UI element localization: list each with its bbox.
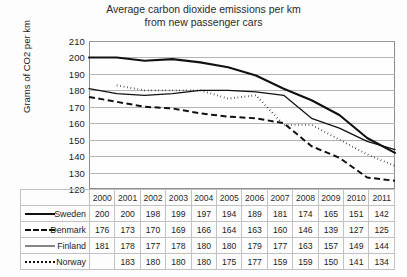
table-cell: 127	[344, 222, 369, 238]
table-cell: 149	[344, 238, 369, 254]
table-cell: 181	[267, 206, 292, 222]
table-cell: 146	[293, 222, 318, 238]
table-cell: 175	[217, 254, 242, 270]
chart-title: Average carbon dioxide emissions per km …	[0, 3, 407, 29]
legend-swatch-denmark-icon	[25, 229, 55, 231]
table-row: Sweden2002001981991971941891811741651511…	[21, 206, 395, 222]
y-tick-190: 190	[69, 68, 85, 79]
table-cell: 125	[369, 222, 395, 238]
table-cell: 139	[318, 222, 343, 238]
table-cell: 151	[344, 206, 369, 222]
series-lines	[89, 41, 395, 189]
table-cell: 194	[217, 206, 242, 222]
table-cell: 134	[369, 254, 395, 270]
table-cell: 177	[267, 238, 292, 254]
legend-swatch-finland-icon	[25, 245, 55, 246]
table-cell: 169	[166, 222, 191, 238]
table-header-2011: 2011	[369, 190, 395, 206]
legend-label: Sweden	[54, 209, 86, 219]
legend-swatch-sweden-icon	[25, 213, 55, 215]
chart-title-line-1: Average carbon dioxide emissions per km	[0, 3, 407, 16]
data-table-wrap: 2000200120022003200420052006200720082009…	[20, 189, 395, 270]
table-header-2007: 2007	[267, 190, 292, 206]
table-row: Finland181178177178180180179177163157149…	[21, 238, 395, 254]
table-cell: 178	[115, 238, 140, 254]
legend-label: Denmark	[50, 225, 86, 235]
y-axis-title: Grams of CO2 per km	[21, 20, 32, 113]
chart-container: Average carbon dioxide emissions per km …	[0, 0, 407, 277]
table-cell: 199	[166, 206, 191, 222]
table-cell: 174	[293, 206, 318, 222]
table-cell: 180	[140, 254, 165, 270]
legend-label: Finland	[57, 241, 86, 251]
table-cell: 177	[242, 254, 267, 270]
table-cell: 177	[140, 238, 165, 254]
table-row: Denmark176173170169166164163160146139127…	[21, 222, 395, 238]
table-header-2009: 2009	[318, 190, 343, 206]
table-header-2010: 2010	[344, 190, 369, 206]
table-cell: 180	[191, 254, 216, 270]
series-line-sweden	[89, 57, 395, 152]
table-cell: 180	[191, 238, 216, 254]
table-cell: 160	[267, 222, 292, 238]
table-cell: 197	[191, 206, 216, 222]
table-body: Sweden2002001981991971941891811741651511…	[21, 206, 395, 270]
table-cell: 141	[344, 254, 369, 270]
table-cell: 163	[293, 238, 318, 254]
table-cell: 178	[166, 238, 191, 254]
table-cell: 163	[242, 222, 267, 238]
table-header-2004: 2004	[191, 190, 216, 206]
table-cell: 150	[318, 254, 343, 270]
y-axis-tick-labels: 210200190180170160150140130120	[41, 34, 85, 196]
table-header-2005: 2005	[217, 190, 242, 206]
table-cell: 180	[217, 238, 242, 254]
series-line-finland	[89, 89, 395, 150]
table-cell-empty	[90, 254, 115, 270]
legend-label: Norway	[56, 257, 86, 267]
y-tick-140: 140	[69, 151, 85, 162]
legend-swatch-norway-icon	[25, 261, 55, 263]
table-cell: 173	[115, 222, 140, 238]
y-tick-210: 210	[69, 36, 85, 47]
chart-title-line-2: from new passenger cars	[0, 16, 407, 29]
table-cell: 170	[140, 222, 165, 238]
table-cell: 144	[369, 238, 395, 254]
table-row: Norway183180180180175177159159150141134	[21, 254, 395, 270]
table-cell: 180	[166, 254, 191, 270]
legend-item-sweden: Sweden	[21, 206, 90, 222]
plot-area	[89, 41, 395, 189]
table-cell: 142	[369, 206, 395, 222]
table-cell: 181	[90, 238, 115, 254]
table-corner-cell	[21, 190, 90, 206]
y-tick-130: 130	[69, 167, 85, 178]
legend-item-norway: Norway	[21, 254, 90, 270]
table-cell: 179	[242, 238, 267, 254]
table-cell: 198	[140, 206, 165, 222]
table-cell: 166	[191, 222, 216, 238]
y-tick-170: 170	[69, 101, 85, 112]
series-line-denmark	[89, 97, 395, 181]
table-header-2002: 2002	[140, 190, 165, 206]
table-cell: 159	[267, 254, 292, 270]
table-header-row: 2000200120022003200420052006200720082009…	[21, 190, 395, 206]
y-tick-180: 180	[69, 85, 85, 96]
y-tick-160: 160	[69, 118, 85, 129]
table-header-2003: 2003	[166, 190, 191, 206]
y-tick-200: 200	[69, 52, 85, 63]
data-table: 2000200120022003200420052006200720082009…	[20, 189, 395, 270]
legend-item-finland: Finland	[21, 238, 90, 254]
y-tick-150: 150	[69, 134, 85, 145]
table-cell: 200	[90, 206, 115, 222]
table-cell: 164	[217, 222, 242, 238]
table-header-2001: 2001	[115, 190, 140, 206]
table-cell: 200	[115, 206, 140, 222]
table-cell: 176	[90, 222, 115, 238]
table-cell: 189	[242, 206, 267, 222]
legend-item-denmark: Denmark	[21, 222, 90, 238]
table-cell: 159	[293, 254, 318, 270]
table-header-2000: 2000	[90, 190, 115, 206]
table-cell: 165	[318, 206, 343, 222]
table-header-2006: 2006	[242, 190, 267, 206]
table-cell: 183	[115, 254, 140, 270]
table-header-2008: 2008	[293, 190, 318, 206]
